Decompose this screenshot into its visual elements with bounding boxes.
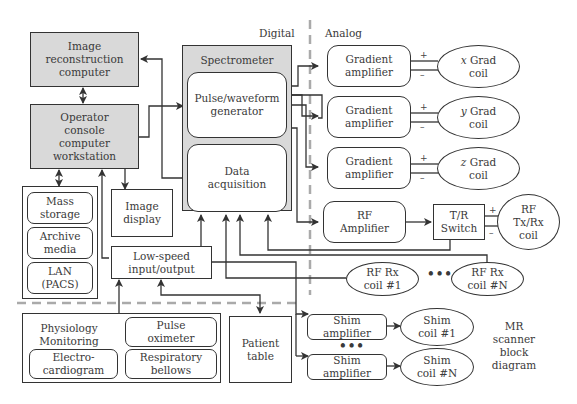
- shim-coil-n-label: Shim coil #N: [417, 354, 457, 380]
- gradient-amplifier-z: Gradient amplifier: [327, 147, 411, 189]
- gradient-amplifier-x-label: Gradient amplifier: [345, 53, 393, 79]
- rf-amplifier-label: RF Amplifier: [340, 209, 389, 235]
- x-grad-coil: x Grad coil: [437, 45, 520, 88]
- shim-ellipsis: •••: [339, 340, 365, 353]
- y-axis-label: y: [461, 105, 467, 117]
- pulse-oximeter: Pulse oximeter: [125, 317, 217, 347]
- plus-mark: +: [420, 153, 428, 163]
- z-axis-label: z: [461, 156, 467, 168]
- minus-mark: –: [420, 122, 425, 132]
- respiratory-bellows-label: Respiratory bellows: [140, 351, 202, 377]
- pulse-waveform-generator: Pulse/waveform generator: [187, 72, 287, 138]
- gradient-amplifier-y-label: Gradient amplifier: [345, 104, 393, 130]
- x-grad-coil-label: Grad coil: [469, 54, 496, 79]
- z-grad-coil-label: Grad coil: [469, 156, 496, 181]
- mass-storage: Mass storage: [27, 192, 93, 224]
- low-speed-io: Low-speed input/output: [111, 246, 212, 279]
- rf-rx-coil-1: RF Rx coil #1: [346, 262, 419, 296]
- plus-mark: +: [420, 102, 428, 112]
- pulse-waveform-generator-label: Pulse/waveform generator: [195, 92, 280, 118]
- spectrometer-title: Spectrometer: [200, 54, 273, 67]
- analog-region-label: Analog: [325, 27, 362, 40]
- shim-coil-1-label: Shim coil #1: [418, 314, 456, 340]
- operator-console-workstation: Operator console computer workstation: [30, 104, 139, 169]
- electrocardiogram-label: Electro- cardiogram: [43, 351, 105, 377]
- rf-txrx-coil: RF Tx/Rx coil: [497, 194, 560, 250]
- minus-mark: –: [489, 228, 494, 238]
- y-grad-coil-label: Grad coil: [469, 105, 496, 130]
- rf-rx-coil-n: RF Rx coil #N: [451, 262, 524, 296]
- archive-media-label: Archive media: [40, 230, 81, 256]
- shim-coil-1: Shim coil #1: [400, 308, 474, 346]
- operator-console-label: Operator console computer workstation: [53, 111, 116, 163]
- z-grad-coil: z Grad coil: [437, 147, 520, 190]
- digital-region-label: Digital: [259, 27, 295, 40]
- data-acquisition-label: Data acquisition: [208, 165, 266, 191]
- lan-pacs-label: LAN (PACS): [41, 265, 78, 291]
- gradient-amplifier-x: Gradient amplifier: [327, 45, 411, 87]
- physiology-monitoring-title: Physiology Monitoring: [35, 322, 103, 348]
- diagram-caption: MR scanner block diagram: [484, 320, 544, 372]
- image-display: Image display: [111, 189, 173, 237]
- shim-amplifier-1: Shim amplifier: [307, 314, 387, 340]
- image-reconstruction-computer: Image reconstruction computer: [30, 32, 139, 87]
- rf-rx-coil-1-label: RF Rx coil #1: [364, 266, 402, 292]
- shim-coil-n: Shim coil #N: [400, 348, 474, 386]
- plus-mark: +: [489, 205, 497, 215]
- rf-amplifier: RF Amplifier: [323, 201, 406, 243]
- patient-table-label: Patient table: [242, 337, 280, 363]
- patient-table: Patient table: [229, 316, 292, 383]
- tr-switch: T/R Switch: [433, 204, 485, 240]
- gradient-amplifier-y: Gradient amplifier: [327, 96, 411, 138]
- mass-storage-label: Mass storage: [40, 195, 80, 221]
- x-axis-label: x: [461, 54, 467, 66]
- plus-mark: +: [420, 50, 428, 60]
- rf-rx-ellipsis: •••: [427, 268, 453, 281]
- image-reconstruction-label: Image reconstruction computer: [45, 40, 123, 79]
- low-speed-io-label: Low-speed input/output: [128, 250, 194, 276]
- rf-rx-coil-n-label: RF Rx coil #N: [467, 266, 507, 292]
- image-display-label: Image display: [123, 200, 161, 226]
- y-grad-coil: y Grad coil: [437, 96, 520, 139]
- respiratory-bellows: Respiratory bellows: [125, 349, 217, 379]
- tr-switch-label: T/R Switch: [441, 209, 477, 235]
- lan-pacs: LAN (PACS): [27, 262, 93, 294]
- gradient-amplifier-z-label: Gradient amplifier: [345, 155, 393, 181]
- electrocardiogram: Electro- cardiogram: [29, 349, 118, 379]
- shim-amplifier-n-label: Shim amplifier: [323, 354, 371, 380]
- archive-media: Archive media: [27, 227, 93, 259]
- shim-amplifier-n: Shim amplifier: [307, 354, 387, 380]
- rf-txrx-coil-label: RF Tx/Rx coil: [513, 203, 543, 242]
- minus-mark: –: [420, 173, 425, 183]
- data-acquisition: Data acquisition: [187, 144, 287, 212]
- pulse-oximeter-label: Pulse oximeter: [147, 319, 194, 345]
- minus-mark: –: [420, 70, 425, 80]
- shim-amplifier-1-label: Shim amplifier: [323, 314, 371, 340]
